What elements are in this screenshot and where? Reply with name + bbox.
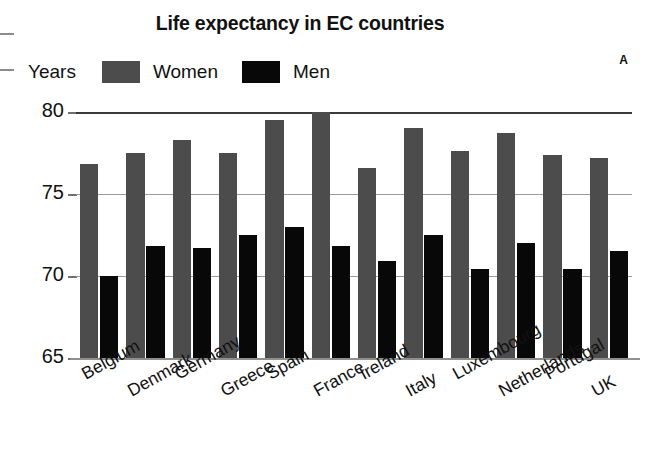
crop-mark-bottom: [0, 69, 14, 71]
plot-area: [76, 112, 632, 358]
bar-denmark-men: [146, 246, 165, 358]
bar-france-men: [332, 246, 351, 358]
bar-spain-women: [265, 120, 284, 358]
bar-ireland-women: [358, 168, 377, 358]
bar-ireland-men: [378, 261, 397, 358]
x-axis-label-uk: UK: [588, 371, 619, 401]
bar-germany-women: [173, 140, 192, 358]
bar-denmark-women: [126, 153, 145, 358]
chart-legend: Years Women Men: [28, 60, 330, 84]
x-axis-baseline: [70, 358, 640, 360]
bar-greece-men: [239, 235, 258, 358]
bar-netherlands-men: [517, 243, 536, 358]
y-axis-tick-label-80: 80: [18, 100, 64, 120]
bar-france-women: [312, 112, 331, 358]
bar-portugal-women: [543, 155, 562, 358]
legend-item-men: Men: [242, 61, 330, 83]
bar-greece-women: [219, 153, 238, 358]
bar-italy-men: [424, 235, 443, 358]
chart-title: Life expectancy in EC countries: [0, 12, 600, 35]
bar-germany-men: [193, 248, 212, 358]
bar-belgium-men: [100, 276, 119, 358]
bar-spain-men: [285, 227, 304, 358]
bar-belgium-women: [80, 164, 99, 358]
y-axis-tick-label-75: 75: [18, 182, 64, 202]
bar-luxembourg-men: [471, 269, 490, 358]
legend-label-women: Women: [153, 61, 218, 83]
y-axis-tick-label-70: 70: [18, 264, 64, 284]
legend-label-men: Men: [293, 61, 330, 83]
bar-italy-women: [404, 128, 423, 358]
y-axis-unit-label: Years: [28, 61, 76, 83]
gridline-80: [76, 112, 632, 114]
legend-item-women: Women: [102, 61, 218, 83]
bar-portugal-men: [563, 269, 582, 358]
bar-netherlands-women: [497, 133, 516, 358]
bar-luxembourg-women: [451, 151, 470, 358]
legend-swatch-women: [102, 61, 140, 83]
y-axis-tick-label-65: 65: [18, 346, 64, 366]
x-axis-label-greece: Greece: [217, 355, 277, 401]
panel-letter: A: [619, 53, 628, 67]
x-axis-label-italy: Italy: [402, 367, 440, 401]
chart-figure: Life expectancy in EC countries A Years …: [0, 0, 656, 470]
legend-swatch-men: [242, 61, 280, 83]
bar-uk-women: [590, 158, 609, 358]
bar-uk-men: [610, 251, 629, 358]
x-axis-label-france: France: [310, 357, 368, 402]
